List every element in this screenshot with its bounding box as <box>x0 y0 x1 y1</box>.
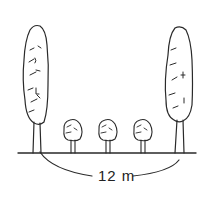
tree-spacing-diagram: 12 m <box>0 0 222 199</box>
small-tree-2 <box>99 120 117 154</box>
tall-tree-left <box>23 26 48 154</box>
small-tree-3 <box>134 120 152 154</box>
measurement-arc-right <box>133 160 179 176</box>
measurement-arc-left <box>40 152 92 176</box>
small-tree-1 <box>64 120 82 154</box>
tall-tree-right <box>165 27 192 153</box>
distance-label: 12 m <box>98 167 135 184</box>
